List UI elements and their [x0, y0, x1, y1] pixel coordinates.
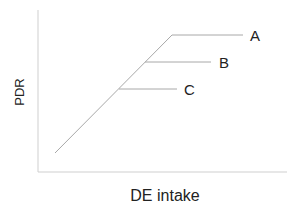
series-label-a: A [250, 27, 260, 44]
pdr-vs-de-intake-diagram: A B C DE intake PDR [0, 0, 300, 214]
series-label-c: C [184, 81, 195, 98]
x-axis-title: DE intake [130, 187, 199, 204]
y-axis-title: PDR [12, 78, 27, 105]
series-label-b: B [219, 54, 229, 71]
rising-line [55, 35, 172, 153]
